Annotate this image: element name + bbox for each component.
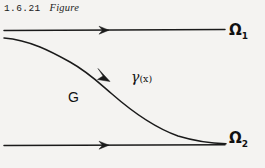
lower-boundary-line	[4, 145, 225, 146]
label-omega-upper: Ω1	[229, 21, 248, 41]
label-gamma-argument: (x)	[139, 73, 152, 84]
label-region-g: G	[68, 89, 79, 105]
label-gamma-curve: γ(x)	[131, 69, 152, 85]
label-omega-upper-symbol: Ω	[229, 21, 242, 39]
gamma-curve	[4, 38, 226, 144]
label-omega-lower: Ω2	[229, 129, 248, 149]
label-omega-upper-subscript: 1	[242, 31, 248, 41]
figure-container: 1.6.21 Figure Ω1 Ω2 γ(x) G	[0, 0, 265, 168]
gamma-curve-arrowhead-icon	[98, 69, 111, 82]
upper-boundary-line	[4, 30, 225, 31]
label-omega-lower-subscript: 2	[242, 139, 248, 149]
label-omega-lower-symbol: Ω	[229, 129, 242, 147]
